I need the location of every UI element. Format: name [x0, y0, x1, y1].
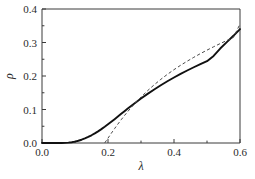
y-tick-label: 0.0 — [23, 137, 37, 149]
figure-container: 0.00.20.40.60.00.10.20.30.4 λ ρ — [0, 0, 255, 179]
y-axis-title: ρ — [2, 73, 16, 80]
x-tick-label: 0.4 — [167, 146, 181, 158]
y-tick-label: 0.1 — [23, 104, 37, 116]
x-tick-label: 0.0 — [35, 146, 49, 158]
x-tick-label: 0.2 — [101, 146, 115, 158]
y-tick-label: 0.3 — [23, 37, 37, 49]
x-axis-title: λ — [137, 159, 143, 173]
line-chart: 0.00.20.40.60.00.10.20.30.4 λ ρ — [0, 0, 255, 179]
y-tick-label: 0.2 — [23, 70, 37, 82]
x-tick-label: 0.6 — [233, 146, 247, 158]
y-tick-label: 0.4 — [23, 3, 37, 15]
